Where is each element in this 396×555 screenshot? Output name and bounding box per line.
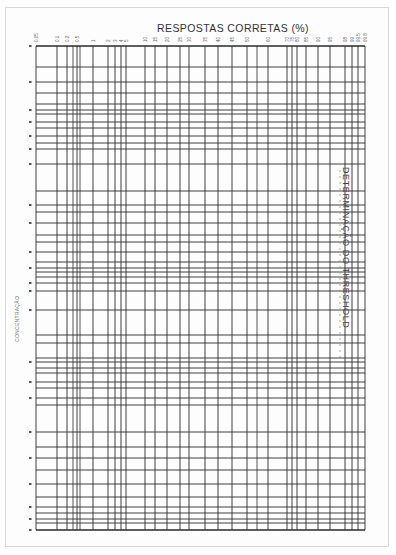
x-tick-label: 99.5 bbox=[356, 33, 361, 42]
x-tick-label: 0.5 bbox=[75, 35, 80, 42]
x-tick-label: 3 bbox=[113, 39, 118, 42]
x-tick-label: 35 bbox=[203, 36, 208, 42]
x-tick-label: 40 bbox=[216, 36, 221, 42]
x-tick-label: 95 bbox=[328, 36, 333, 42]
x-tick-label: 0.1 bbox=[55, 35, 60, 42]
x-tick-label: 2 bbox=[106, 39, 111, 42]
x-tick-label: 0.2 bbox=[65, 35, 70, 42]
y-tick-mark bbox=[29, 361, 32, 363]
x-tick-label: 99 bbox=[350, 36, 355, 42]
x-tick-label: 80 bbox=[295, 36, 300, 42]
x-tick-label: 90 bbox=[316, 36, 321, 42]
y-tick-mark bbox=[29, 45, 32, 47]
y-tick-mark bbox=[29, 222, 32, 224]
x-tick-label: 5 bbox=[124, 39, 129, 42]
y-tick-mark bbox=[29, 309, 32, 311]
x-tick-label: 60 bbox=[266, 36, 271, 42]
y-tick-mark bbox=[29, 381, 32, 383]
x-tick-label: 45 bbox=[230, 36, 235, 42]
y-tick-mark bbox=[29, 483, 32, 485]
y-tick-mark bbox=[29, 529, 32, 531]
y-tick-mark bbox=[29, 282, 32, 284]
x-tick-label: 99.8 bbox=[363, 33, 368, 42]
y-tick-mark bbox=[29, 121, 32, 123]
y-tick-mark bbox=[29, 204, 32, 206]
x-tick-label: 0.05 bbox=[34, 33, 39, 42]
x-tick-label: 85 bbox=[304, 36, 309, 42]
y-tick-mark bbox=[29, 397, 32, 399]
x-tick-label: 98 bbox=[343, 36, 348, 42]
y-tick-mark bbox=[29, 148, 32, 150]
y-tick-mark bbox=[29, 251, 32, 253]
x-tick-label: 50 bbox=[245, 36, 250, 42]
y-tick-mark bbox=[29, 267, 32, 269]
probability-log-grid: 0.050.10.20.5123451015202530354045506070… bbox=[0, 0, 396, 555]
y-tick-mark bbox=[29, 135, 32, 137]
x-tick-label: 10 bbox=[143, 36, 148, 42]
x-tick-label: 1 bbox=[91, 39, 96, 42]
y-tick-mark bbox=[29, 518, 32, 520]
y-tick-mark bbox=[29, 109, 32, 111]
y-tick-mark bbox=[29, 431, 32, 433]
x-tick-label: 20 bbox=[165, 36, 170, 42]
y-tick-mark bbox=[29, 290, 32, 292]
side-title: DETERMINAÇÃO DO THRESHOLD bbox=[341, 167, 351, 328]
y-tick-mark bbox=[29, 506, 32, 508]
y-tick-mark bbox=[29, 81, 32, 83]
x-tick-label: 30 bbox=[187, 36, 192, 42]
y-tick-mark bbox=[29, 457, 32, 459]
x-tick-label: 25 bbox=[178, 36, 183, 42]
x-tick-label: 15 bbox=[153, 36, 158, 42]
y-tick-mark bbox=[29, 163, 32, 165]
